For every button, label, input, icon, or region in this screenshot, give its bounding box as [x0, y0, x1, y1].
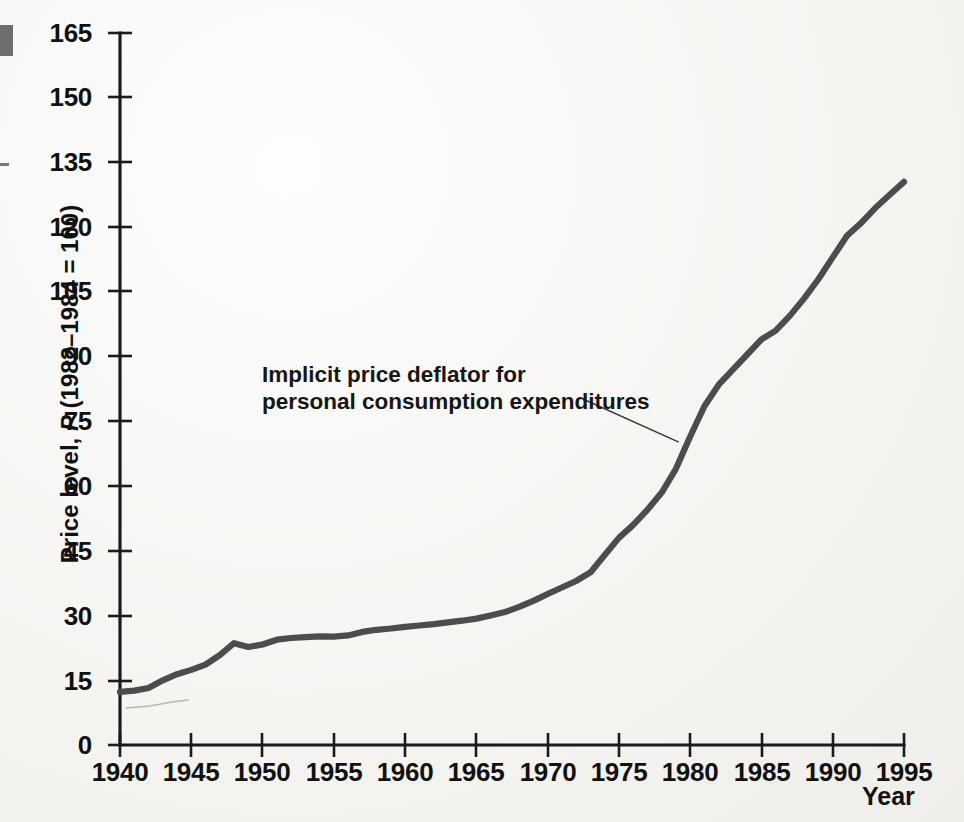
scan-artifact-line: [126, 700, 188, 708]
y-axis-title-suffix: (1982–1984 = 100): [56, 205, 83, 415]
y-axis-title-prefix: Price level,: [56, 431, 83, 563]
x-axis-title: Year: [862, 782, 915, 811]
price-level-chart-figure: 165 150 135 120 105 90 75 60 45 30 15 0 …: [0, 0, 964, 822]
series-annotation-line1: Implicit price deflator for: [262, 361, 650, 388]
series-annotation: Implicit price deflator for personal con…: [262, 361, 650, 416]
series-annotation-line2: personal consumption expenditures: [262, 388, 650, 415]
y-axis-title: Price level, P (1982–1984 = 100): [56, 149, 84, 619]
y-tick-label-150: 150: [22, 82, 92, 113]
y-axis-title-symbol: P: [56, 415, 83, 431]
y-tick-label-15: 15: [22, 666, 92, 697]
y-tick-label-165: 165: [22, 18, 92, 49]
price-deflator-curve: [120, 182, 904, 692]
